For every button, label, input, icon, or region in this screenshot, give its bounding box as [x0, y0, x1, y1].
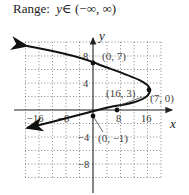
- y-axis-label: y: [97, 28, 105, 43]
- pointer-0-neg1: [93, 116, 103, 132]
- tick-y-neg8: −8: [78, 159, 89, 170]
- point-0-7: [91, 61, 96, 66]
- label-point-0-7: (0, 7): [102, 50, 126, 63]
- tick-x-16: 16: [141, 113, 152, 124]
- tick-x-neg16: −16: [27, 113, 43, 124]
- point-7-0: [115, 108, 120, 113]
- label-point-7-0: (7, 0): [150, 92, 174, 105]
- parabola-chart: x y −16 −8 8 16 8 4 −4 −8 (0, 7) (16, 3)…: [0, 0, 189, 195]
- tick-y-neg4: −4: [78, 132, 90, 143]
- label-point-16-3: (16, 3): [106, 87, 136, 100]
- tick-y-4: 4: [83, 78, 89, 89]
- label-point-0-neg1: (0, −1): [98, 132, 128, 145]
- x-axis-label: x: [169, 116, 176, 131]
- point-0-neg1: [91, 114, 96, 119]
- tick-x-8: 8: [116, 113, 121, 124]
